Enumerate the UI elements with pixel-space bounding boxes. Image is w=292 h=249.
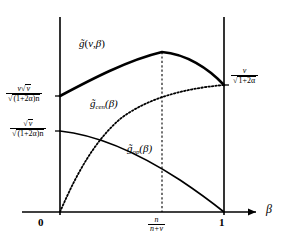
x-axis-arrowhead bbox=[248, 209, 256, 216]
annotation-top-paren-close: ) bbox=[101, 37, 105, 49]
annotation-curve-g-cen: g̃cen(β) bbox=[90, 98, 118, 110]
y-upper-den-radicand: (1+2α)n bbox=[12, 94, 40, 103]
x-tick-label-zero: 0 bbox=[38, 217, 44, 228]
annotation-curve-g-nu-beta: g̃(ν,β) bbox=[79, 38, 105, 49]
annotation-cen-subscript: cen bbox=[96, 103, 105, 110]
y-right-radicand: 1+2α bbox=[237, 76, 256, 85]
y-lower-den-radicand: (1+2α)n bbox=[16, 129, 44, 138]
x-tick-label-one: 1 bbox=[219, 217, 225, 228]
y-axis-label-lower: √ν √(1+2α)n bbox=[10, 119, 46, 139]
annotation-cen-args: (β) bbox=[105, 97, 118, 109]
curve-g-nu-beta bbox=[60, 52, 224, 96]
x-tick-peak-denominator: n+ν bbox=[148, 225, 165, 233]
annotation-curve-g-op: g̃op(β) bbox=[127, 143, 152, 155]
y-right-numerator: ν bbox=[243, 66, 247, 75]
y-lower-num-radicand: ν bbox=[28, 119, 34, 128]
x-tick-label-peak: n n+ν bbox=[148, 216, 165, 234]
y-axis-label-upper: ν√ν √(1+2α)n bbox=[6, 84, 42, 104]
x-axis-symbol-beta: β bbox=[266, 203, 272, 215]
annotation-op-args: (β) bbox=[139, 142, 152, 154]
y-axis-label-right: ν √1+2α bbox=[231, 67, 258, 86]
figure-container: ν√ν √(1+2α)n √ν √(1+2α)n ν √1+2α bbox=[0, 0, 292, 249]
y-upper-num-radicand: ν bbox=[25, 84, 31, 93]
